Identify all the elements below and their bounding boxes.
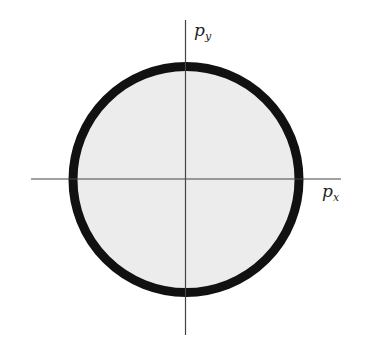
x-axis-label: px xyxy=(322,181,339,204)
y-axis-label: py xyxy=(194,20,211,43)
x-axis-label-main: p xyxy=(322,181,333,201)
momentum-space-diagram xyxy=(0,0,369,356)
y-axis-label-main: p xyxy=(194,20,205,40)
y-axis-label-sub: y xyxy=(205,30,211,43)
x-axis-label-sub: x xyxy=(333,191,339,204)
